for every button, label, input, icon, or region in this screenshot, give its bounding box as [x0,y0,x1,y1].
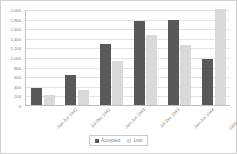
x-tick-label: 1944 (Jan-Oct) [227,107,237,131]
x-tick-label: Jul-Dec 1943 [158,107,180,129]
y-tick-label: 800 [14,65,21,70]
bar-group [94,10,128,105]
legend-swatch-icon-lost [127,139,131,143]
bar-group [26,10,60,105]
bar-group [163,10,197,105]
x-tick-label: Jan-Jun 1944 [193,107,215,129]
bar-chart: 2,0001,8001,6001,4001,2001,0008006004002… [0,0,237,154]
plot-area [25,10,230,106]
chart-legend: Accepted Lost [89,135,149,146]
bar-group [197,10,231,105]
bar-lost[interactable] [78,90,89,105]
bar-lost[interactable] [180,45,191,105]
legend-label-accepted: Accepted [101,138,120,143]
y-tick-label: 1,200 [11,46,22,51]
y-tick-label: 400 [14,84,21,89]
bar-accepted[interactable] [100,44,111,105]
y-tick-label: 200 [14,94,21,99]
bar-lost[interactable] [146,35,157,105]
legend-entry-accepted[interactable]: Accepted [95,138,121,143]
bars-layer [26,10,230,105]
x-tick-label: Jul-Dec 1942 [90,107,112,129]
bar-accepted[interactable] [168,20,179,105]
y-tick-label: 1,600 [11,27,22,32]
x-axis: Jan-Jun 1942Jul-Dec 1942Jan-Jun 1943Jul-… [25,106,230,136]
y-axis: 2,0001,8001,6001,4001,2001,0008006004002… [1,10,23,106]
bar-lost[interactable] [44,95,55,105]
bar-accepted[interactable] [31,88,42,105]
x-tick-label: Jan-Jun 1942 [56,107,78,129]
bar-group [129,10,163,105]
y-tick-label: 1,800 [11,17,22,22]
y-tick-label: 600 [14,75,21,80]
legend-swatch-icon-accepted [95,139,99,143]
y-tick-label: 2,000 [11,8,22,13]
bar-accepted[interactable] [134,21,145,105]
legend-entry-lost[interactable]: Lost [127,138,142,143]
bar-lost[interactable] [215,9,226,105]
legend-label-lost: Lost [134,138,143,143]
bar-accepted[interactable] [65,75,76,105]
bar-lost[interactable] [112,61,123,105]
bar-accepted[interactable] [202,59,213,105]
y-tick-label: 1,000 [11,56,22,61]
bar-group [60,10,94,105]
x-tick-label: Jan-Jun 1943 [124,107,146,129]
y-tick-label: 0 [19,104,21,109]
y-tick-label: 1,400 [11,36,22,41]
